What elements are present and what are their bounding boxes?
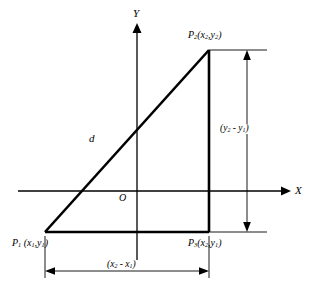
origin-label: O [119,193,126,203]
distance-formula-diagram: Y X O d P2(x2,y2) P1 (x1,y1) P3(x2,y1) (… [0,0,316,294]
point-label-p3: P3(x2,y1) [188,238,221,248]
vertical-dimension-line [243,50,251,232]
y-axis-label: Y [133,8,139,19]
dy-close-paren: ) [245,123,248,133]
x-axis-label: X [295,185,302,196]
triangle-hypotenuse [45,50,209,232]
vertical-dimension-label: (y2 - y1) [218,124,251,134]
p2-coord-x-sub: 2 [205,33,208,40]
p3-coord-x-sub: 2 [205,241,208,248]
p1-index: 1 [18,241,21,248]
p1-coord-y-sub: 1 [42,241,45,248]
horizontal-extension-lines [45,236,209,278]
p3-coord-y-sub: 1 [215,241,218,248]
diagram-canvas [0,0,316,294]
hypotenuse-length-label: d [89,133,95,144]
p1-coord-x-sub: 1 [32,241,35,248]
p2-index: 2 [194,33,197,40]
point-label-p2: P2(x2,y2) [188,30,221,40]
dx-close-paren: ) [132,259,135,269]
p2-coord-y-sub: 2 [215,33,218,40]
horizontal-dimension-label: (x2 - x1) [105,260,138,270]
y-axis [133,23,142,262]
vertical-extension-lines [209,50,267,232]
x-axis [18,187,291,196]
right-triangle [45,50,209,232]
point-label-p1: P1 (x1,y1) [12,238,48,248]
p3-index: 3 [194,241,197,248]
